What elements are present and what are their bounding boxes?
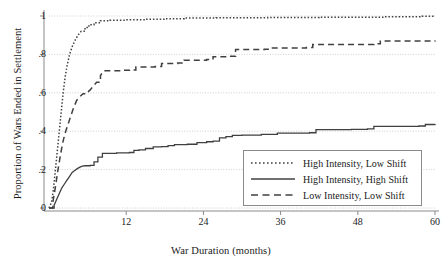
x-tick-label: 24 (183, 216, 223, 227)
x-tick-label: 48 (338, 216, 378, 227)
chart-legend: High Intensity, Low Shift High Intensity… (243, 150, 422, 206)
legend-label-low-intensity-low-shift: Low Intensity, Low Shift (303, 190, 405, 201)
y-axis-title: Proportion of Wars Ended in Settlement (12, 9, 23, 219)
x-tick-label: 60 (415, 216, 442, 227)
y-tick-label: .2 (16, 164, 46, 175)
legend-key-solid (250, 173, 296, 185)
x-tick-label: 36 (261, 216, 301, 227)
y-tick-label: 0 (16, 202, 46, 213)
y-tick-label: .8 (16, 48, 46, 59)
legend-label-high-intensity-low-shift: High Intensity, Low Shift (303, 158, 406, 169)
legend-key-dashed (250, 189, 296, 201)
legend-item: High Intensity, Low Shift (244, 155, 421, 171)
y-tick-label: 1 (16, 10, 46, 21)
legend-label-high-intensity-high-shift: High Intensity, High Shift (303, 174, 408, 185)
survival-curve-figure: Proportion of Wars Ended in Settlement W… (0, 0, 442, 267)
legend-item: Low Intensity, Low Shift (244, 187, 421, 203)
legend-key-dotted (250, 157, 296, 169)
legend-item: High Intensity, High Shift (244, 171, 421, 187)
x-tick-label: 12 (106, 216, 146, 227)
x-axis-title: War Duration (months) (0, 245, 442, 256)
y-tick-label: .6 (16, 87, 46, 98)
y-tick-label: .4 (16, 125, 46, 136)
